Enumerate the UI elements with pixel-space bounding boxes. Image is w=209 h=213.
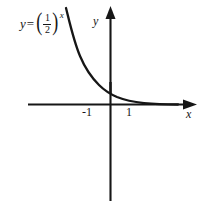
equation-label: y = ( 1 2 ) x: [20, 12, 64, 34]
equation-lhs: y: [20, 17, 26, 30]
fraction-denominator: 2: [45, 25, 50, 35]
y-axis-label: y: [93, 14, 98, 29]
x-tick-label-neg-one: -1: [82, 105, 92, 120]
exponential-decay-figure: y = ( 1 2 ) x y x -1 1: [0, 0, 209, 213]
open-paren: (: [36, 12, 42, 32]
x-axis-label: x: [186, 107, 191, 122]
exponent-x: x: [60, 11, 64, 20]
fraction-numerator: 1: [45, 13, 50, 23]
equation-fraction-group: ( 1 2 ) x: [35, 12, 64, 34]
close-paren: ): [53, 12, 59, 32]
equation-equals: =: [27, 17, 34, 30]
fraction-one-half: 1 2: [43, 13, 51, 35]
y-axis-arrowhead: [106, 6, 116, 19]
x-tick-label-one: 1: [126, 105, 132, 120]
exponential-curve: [66, 8, 178, 105]
